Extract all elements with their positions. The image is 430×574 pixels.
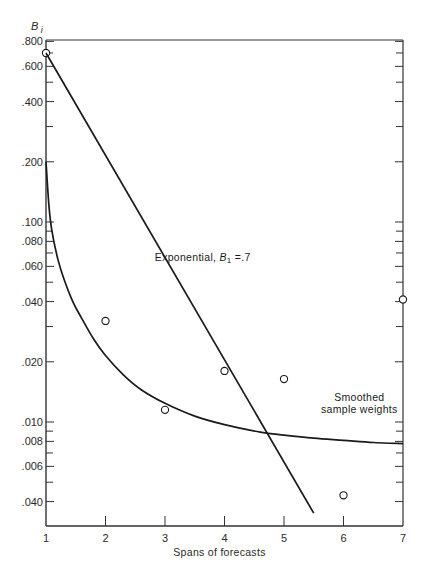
data-point-marker bbox=[102, 317, 109, 324]
y-tick-label: .200 bbox=[22, 156, 43, 168]
x-tick-label: 2 bbox=[102, 532, 108, 544]
data-point-marker bbox=[161, 406, 168, 413]
y-tick-label: .040 bbox=[22, 296, 43, 308]
y-tick-label: .008 bbox=[22, 435, 43, 447]
labels-layer: .800.600.400.200.100.080.060.040.020.010… bbox=[22, 20, 406, 558]
exponential-line bbox=[46, 53, 314, 513]
y-tick-label: .800 bbox=[22, 35, 43, 47]
x-tick-label: 6 bbox=[340, 532, 346, 544]
y-tick-label: .100 bbox=[22, 216, 43, 228]
exponential-label: Exponential, B1 =.7 bbox=[155, 251, 251, 265]
y-tick-label: .600 bbox=[22, 60, 43, 72]
y-tick-label: .040 bbox=[22, 496, 43, 508]
smoothed-label-line2: sample weights bbox=[321, 403, 398, 415]
x-tick-label: 1 bbox=[43, 532, 49, 544]
x-tick-label: 7 bbox=[400, 532, 406, 544]
y-tick-label: .006 bbox=[22, 460, 43, 472]
y-tick-label: .020 bbox=[22, 356, 43, 368]
smoothed-label-line1: Smoothed bbox=[334, 391, 384, 403]
data-point-marker bbox=[221, 367, 228, 374]
chart-canvas: .800.600.400.200.100.080.060.040.020.010… bbox=[0, 0, 430, 574]
data-point-marker bbox=[280, 375, 287, 382]
series-layer bbox=[42, 49, 406, 513]
y-tick-label: .400 bbox=[22, 96, 43, 108]
y-tick-label: .060 bbox=[22, 260, 43, 272]
data-point-marker bbox=[340, 492, 347, 499]
x-tick-label: 4 bbox=[221, 532, 227, 544]
x-axis-title-text: Spans of forecasts bbox=[173, 546, 265, 558]
x-tick-label: 3 bbox=[162, 532, 168, 544]
chart: .800.600.400.200.100.080.060.040.020.010… bbox=[0, 0, 430, 574]
y-tick-label: .080 bbox=[22, 235, 43, 247]
x-tick-label: 5 bbox=[281, 532, 287, 544]
y-tick-label: .010 bbox=[22, 416, 43, 428]
axes bbox=[46, 40, 403, 526]
data-point-marker bbox=[399, 296, 406, 303]
y-axis-title-text: B i bbox=[31, 20, 44, 35]
